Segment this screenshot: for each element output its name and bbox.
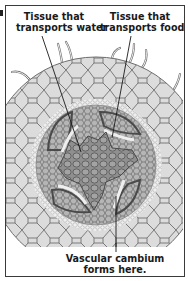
label-water-tissue: Tissue that transports water [16, 11, 92, 33]
label-water-line1: Tissue that [16, 11, 92, 22]
label-cambium-line2: forms here. [60, 264, 170, 275]
label-water-line2: transports water [16, 22, 92, 33]
label-food-tissue: Tissue that transports food [100, 11, 180, 33]
label-food-line1: Tissue that [100, 11, 180, 22]
label-vascular-cambium: Vascular cambium forms here. [60, 253, 170, 275]
root-cross-section-diagram [0, 0, 188, 281]
label-food-line2: transports food [100, 22, 180, 33]
label-cambium-line1: Vascular cambium [60, 253, 170, 264]
